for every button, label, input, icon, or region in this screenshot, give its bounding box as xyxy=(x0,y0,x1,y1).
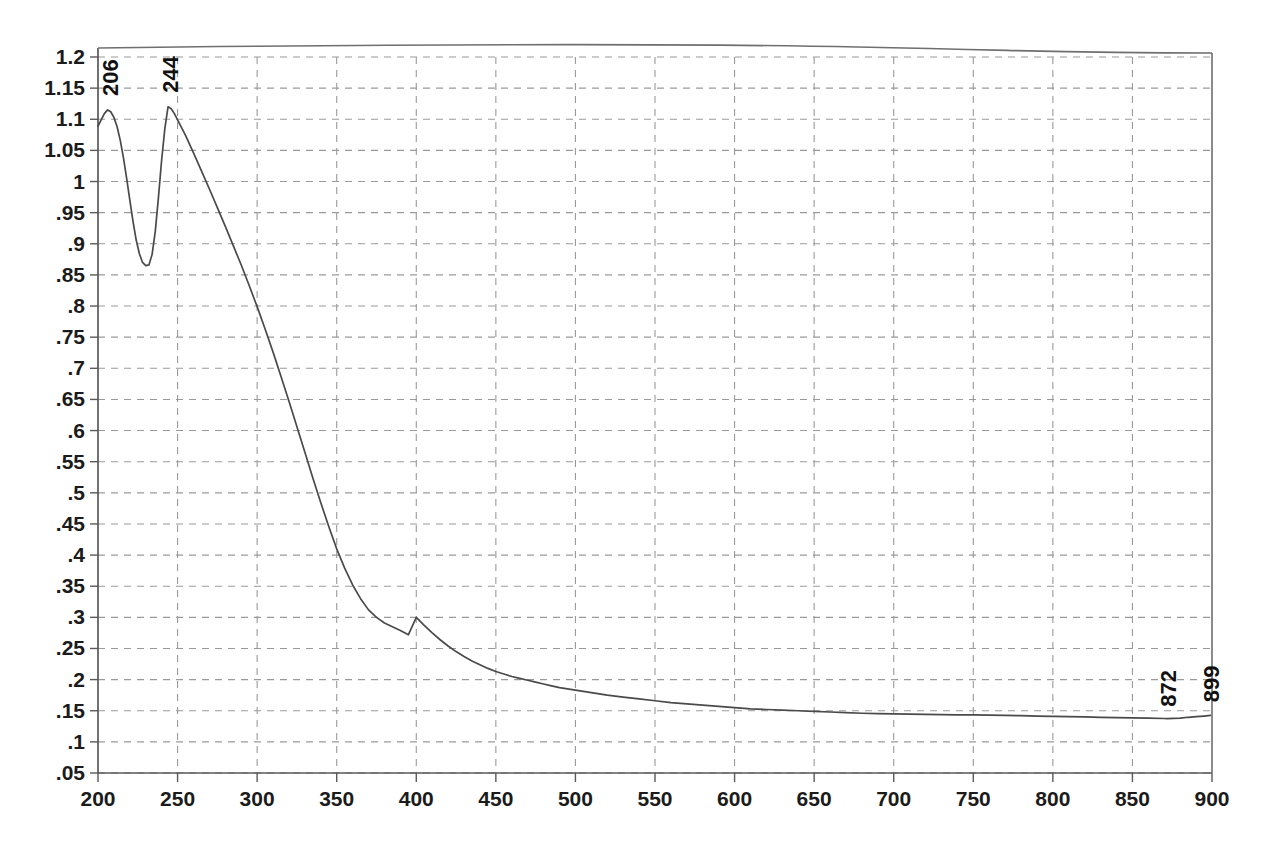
peak-annotation-244: 244 xyxy=(158,55,183,92)
y-tick-label: .5 xyxy=(67,481,85,504)
x-tick-label: 900 xyxy=(1194,787,1229,810)
y-tick-label: .6 xyxy=(67,419,85,442)
y-tick-label: 1 xyxy=(73,170,85,193)
x-tick-label: 550 xyxy=(637,787,672,810)
x-tick-label: 350 xyxy=(319,787,354,810)
y-tick-label: .1 xyxy=(67,730,85,753)
peak-annotation-206: 206 xyxy=(98,59,123,96)
y-tick-label: 1.2 xyxy=(56,45,85,68)
x-tick-label: 750 xyxy=(956,787,991,810)
y-tick-label: .4 xyxy=(67,543,85,566)
y-tick-label: .05 xyxy=(56,761,86,784)
uv-vis-spectrum-chart: 1.21.151.11.051.95.9.85.8.75.7.65.6.55.5… xyxy=(0,0,1283,844)
y-tick-label: .95 xyxy=(56,201,86,224)
x-tick-label: 250 xyxy=(160,787,195,810)
y-tick-label: .65 xyxy=(56,387,86,410)
y-tick-label: .35 xyxy=(56,574,86,597)
y-tick-label: .7 xyxy=(67,356,85,379)
y-tick-label: .9 xyxy=(67,232,85,255)
x-tick-label: 650 xyxy=(797,787,832,810)
x-tick-label: 600 xyxy=(717,787,752,810)
y-tick-label: .55 xyxy=(56,450,86,473)
y-tick-label: .15 xyxy=(56,699,86,722)
y-tick-label: .45 xyxy=(56,512,86,535)
y-tick-label: .2 xyxy=(67,668,85,691)
peak-annotation-872: 872 xyxy=(1156,670,1181,707)
x-tick-label: 300 xyxy=(240,787,275,810)
y-tick-label: .8 xyxy=(67,294,85,317)
x-tick-label: 450 xyxy=(478,787,513,810)
y-tick-label: 1.1 xyxy=(56,107,86,130)
x-tick-label: 800 xyxy=(1035,787,1070,810)
x-axis-tick-labels: 2002503003504004505005506006507007508008… xyxy=(80,787,1229,810)
x-tick-label: 700 xyxy=(876,787,911,810)
peak-annotation-899: 899 xyxy=(1199,665,1224,702)
y-tick-label: .3 xyxy=(67,605,85,628)
y-tick-label: 1.05 xyxy=(44,138,85,161)
y-tick-label: .75 xyxy=(56,325,86,348)
x-tick-label: 500 xyxy=(558,787,593,810)
y-tick-label: .25 xyxy=(56,636,86,659)
x-tick-label: 400 xyxy=(399,787,434,810)
y-tick-label: .85 xyxy=(56,263,86,286)
x-tick-label: 200 xyxy=(80,787,115,810)
y-tick-label: 1.15 xyxy=(44,76,85,99)
x-tick-label: 850 xyxy=(1115,787,1150,810)
